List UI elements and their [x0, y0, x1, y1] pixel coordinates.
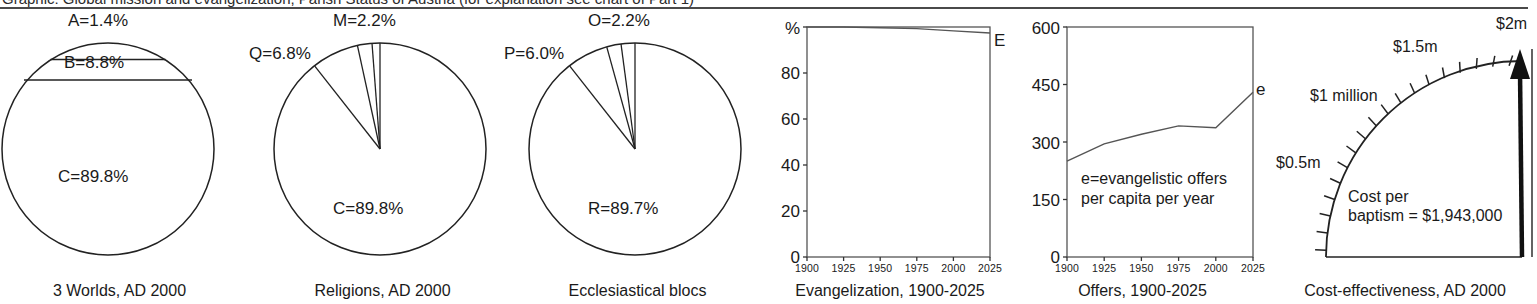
- y-tick-label-pct: %: [767, 19, 800, 39]
- x-tick-label-2000: 2000: [935, 262, 971, 274]
- panel-caption-ecclesiastical-blocs: Ecclesiastical blocs: [510, 282, 765, 300]
- x-tick-label-2025: 2025: [972, 262, 1008, 274]
- panel-caption-offers: Offers, 1900-2025: [1015, 282, 1270, 300]
- panel-caption-cost-effectiveness: Cost-effectiveness, AD 2000: [1270, 282, 1537, 300]
- y-tick-label-20: 20: [767, 202, 800, 222]
- x-tick-label-1950: 1950: [862, 262, 898, 274]
- y-tick-label-80: 80: [767, 64, 800, 84]
- y-tick-label-150: 150: [1017, 191, 1060, 211]
- x-tick-label-1900: 1900: [789, 262, 825, 274]
- x-tick-label-2000: 2000: [1198, 262, 1234, 274]
- pie-slice-label-c: C=89.8%: [58, 167, 128, 187]
- x-tick-label-1975: 1975: [1161, 262, 1197, 274]
- pie-three-worlds-svg: [0, 9, 255, 271]
- panel-ecclesiastical-blocs: O=2.2% P=6.0% R=89.7% Ecclesiastical blo…: [510, 9, 765, 304]
- pie-slice-label-q: Q=6.8%: [249, 44, 311, 64]
- offers-annotation-line2: per capita per year: [1081, 189, 1214, 209]
- pie-slice-label-o: O=2.2%: [588, 11, 650, 31]
- x-tick-label-1925: 1925: [1086, 262, 1122, 274]
- pie-religions: M=2.2% Q=6.8% C=89.8%: [255, 9, 510, 271]
- y-tick-label-300: 300: [1017, 134, 1060, 154]
- panel-evangelization: % 80 60 40 20 0 1900 1925 1950 1975 2000…: [765, 9, 1015, 304]
- pie-slice-label-a: A=1.4%: [68, 11, 128, 31]
- figure-header-text: Graphic: Global mission and evangelizati…: [2, 0, 694, 7]
- gauge-tick-label-2m: $2m: [1496, 15, 1527, 33]
- pie-slice-label-b: B=8.8%: [64, 53, 124, 73]
- figure-header: Graphic: Global mission and evangelizati…: [0, 0, 1528, 9]
- series-label-e-lower: e: [1256, 80, 1265, 100]
- pie-ecclesiastical-blocs: O=2.2% P=6.0% R=89.7%: [510, 9, 765, 271]
- x-tick-label-1900: 1900: [1049, 262, 1085, 274]
- y-tick-label-40: 40: [767, 156, 800, 176]
- gauge-value-note-line1: Cost per: [1348, 187, 1408, 207]
- panel-religions: M=2.2% Q=6.8% C=89.8% Religions, AD 2000: [255, 9, 510, 304]
- pie-slice-label-c: C=89.8%: [333, 199, 403, 219]
- offers-annotation-line1: e=evangelistic offers: [1081, 169, 1227, 189]
- gauge-tick-label-1-5m: $1.5m: [1393, 38, 1437, 56]
- series-label-e-upper: E: [994, 31, 1005, 51]
- gauge-value-note-line2: baptism = $1,943,000: [1348, 206, 1502, 226]
- evangelization-plot: [765, 9, 1015, 271]
- pie-slice-label-r: R=89.7%: [588, 199, 658, 219]
- x-tick-label-1975: 1975: [899, 262, 935, 274]
- pie-three-worlds: A=1.4% B=8.8% C=89.8%: [0, 9, 255, 271]
- chart-panel-row: A=1.4% B=8.8% C=89.8% 3 Worlds, AD 2000 …: [0, 9, 1528, 304]
- y-tick-label-60: 60: [767, 110, 800, 130]
- x-tick-label-1925: 1925: [826, 262, 862, 274]
- y-tick-label-450: 450: [1017, 76, 1060, 96]
- panel-caption-religions: Religions, AD 2000: [255, 282, 510, 300]
- panel-offers: 600 450 300 150 0 1900 1925 1950 1975 20…: [1015, 9, 1270, 304]
- panel-cost-effectiveness: $0.5m $1 million $1.5m $2m Cost per bapt…: [1270, 9, 1533, 304]
- panel-three-worlds: A=1.4% B=8.8% C=89.8% 3 Worlds, AD 2000: [0, 9, 255, 304]
- panel-caption-three-worlds: 3 Worlds, AD 2000: [0, 282, 247, 300]
- pie-slice-label-m: M=2.2%: [333, 11, 396, 31]
- panel-caption-evangelization: Evangelization, 1900-2025: [765, 282, 1015, 300]
- y-tick-label-600: 600: [1017, 19, 1060, 39]
- pie-slice-label-p: P=6.0%: [504, 44, 564, 64]
- x-tick-label-2025: 2025: [1235, 262, 1271, 274]
- gauge-tick-label-1-million: $1 million: [1310, 87, 1378, 105]
- x-tick-label-1950: 1950: [1123, 262, 1159, 274]
- gauge-tick-label-0-5m: $0.5m: [1276, 154, 1320, 172]
